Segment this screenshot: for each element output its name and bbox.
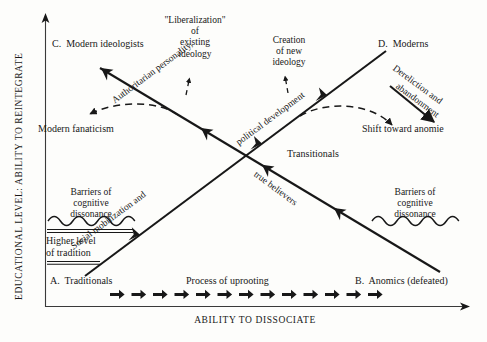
x-axis-label: ABILITY TO DISSOCIATE xyxy=(175,315,335,326)
corner-label-top-left: C. Modern ideologists xyxy=(52,38,144,50)
annotation-process-of-uprooting: Process of uprooting xyxy=(186,275,269,287)
uprooting-arrow-icon xyxy=(218,290,233,299)
corner-label-bottom-left: A. Traditionals xyxy=(50,275,113,287)
annotation-shift-toward-anomie: Shift toward anomie xyxy=(362,123,444,135)
dashed-arc-left xyxy=(90,104,178,115)
uprooting-arrow-icon xyxy=(196,290,211,299)
uprooting-arrow-icon xyxy=(282,290,297,299)
uprooting-arrow-icon xyxy=(304,290,319,299)
annotation-liberalization: "Liberalization" of existing ideology xyxy=(150,15,240,60)
annotation-creation-new-ideology: Creation of new ideology xyxy=(253,35,325,69)
uprooting-arrow-icon xyxy=(110,290,125,299)
falling-diagonal-line xyxy=(100,68,440,272)
corner-label-bottom-right: B. Anomics (defeated) xyxy=(355,275,448,287)
diagram-canvas: EDUCATIONAL LEVEL: ABILITY TO REINTEGRAT… xyxy=(0,0,487,342)
annotation-modern-fanaticism: Modern fanaticism xyxy=(38,123,114,135)
annotation-barriers-right: Barriers of cognitive dissonance xyxy=(365,187,465,221)
uprooting-arrow-icon xyxy=(347,290,362,299)
uprooting-arrow-icon xyxy=(132,290,147,299)
y-axis-label: EDUCATIONAL LEVEL: ABILITY TO REINTEGRAT… xyxy=(14,53,24,300)
annotation-transitionals: Transitionals xyxy=(287,148,339,160)
uprooting-arrow-row xyxy=(110,290,383,299)
tradition-underline xyxy=(47,262,100,265)
dashed-arrow-creation xyxy=(285,76,288,93)
diagram-vector-layer xyxy=(0,0,487,342)
uprooting-arrow-icon xyxy=(368,290,383,299)
uprooting-arrow-icon xyxy=(325,290,340,299)
uprooting-arrow-icon xyxy=(153,290,168,299)
uprooting-arrow-icon xyxy=(239,290,254,299)
dashed-arrow-liberalization xyxy=(186,78,190,95)
uprooting-arrow-icon xyxy=(175,290,190,299)
uprooting-arrow-icon xyxy=(261,290,276,299)
corner-label-top-right: D. Moderns xyxy=(378,38,428,50)
